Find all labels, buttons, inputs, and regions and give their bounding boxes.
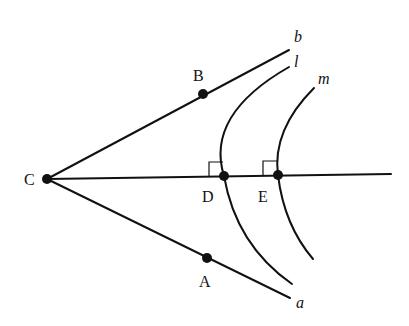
label-c: C [24,171,35,188]
point-e [273,170,283,180]
point-d [219,171,229,181]
label-e: E [258,188,268,205]
label-b: B [193,67,204,84]
point-a [202,253,212,263]
label-ray-a: a [296,294,304,311]
point-c [42,174,52,184]
label-arc-l: l [294,53,299,70]
label-arc-m: m [318,70,330,87]
ray-b [47,50,289,179]
bisector-line [47,174,391,179]
ray-a [47,179,290,298]
point-b [198,89,208,99]
label-d: D [202,188,214,205]
label-a: A [199,273,211,290]
geometry-diagram: C B A D E b a l m [0,0,409,326]
label-ray-b: b [294,28,302,45]
